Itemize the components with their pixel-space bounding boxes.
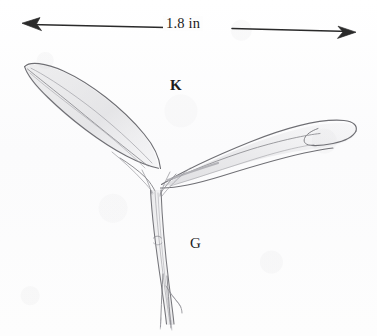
left-leaf-midrib	[28, 69, 149, 166]
right-leaf	[160, 120, 356, 196]
left-leaf	[25, 63, 161, 193]
left-leaf-fill	[26, 64, 159, 167]
illustration-page: 1.8 in K G	[0, 0, 377, 336]
seedling-illustration	[0, 0, 377, 336]
annotation-label-g: G	[190, 236, 201, 251]
scale-line-left	[30, 25, 166, 28]
right-leaf-fill	[162, 123, 356, 186]
scale-measurement-label: 1.8 in	[163, 16, 203, 31]
scale-line-right	[232, 29, 350, 32]
annotation-label-k: K	[170, 78, 182, 93]
arrow-right-icon	[338, 26, 357, 38]
